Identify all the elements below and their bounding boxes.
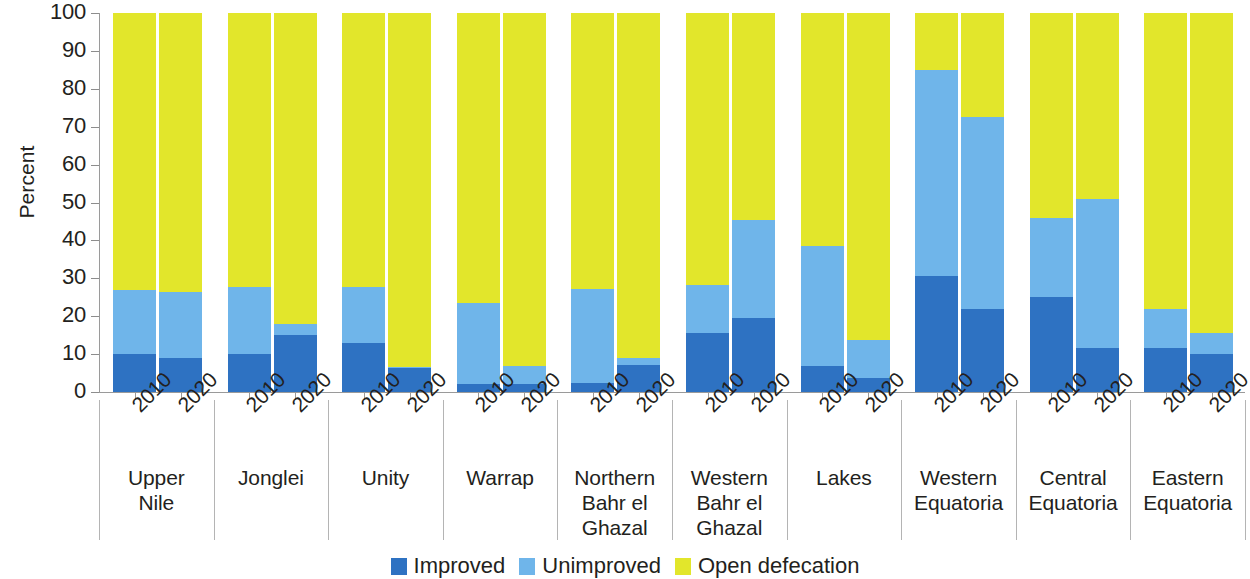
stacked-bar: [342, 13, 385, 392]
stacked-bar: [159, 13, 202, 392]
bar-segment-open-defecation: [801, 13, 844, 246]
plot-area: [99, 13, 1245, 392]
y-axis-tick-mark: [91, 354, 99, 355]
bar-segment-open-defecation: [1030, 13, 1073, 218]
stacked-bar: [686, 13, 729, 392]
y-axis-tick-label: 20: [38, 304, 86, 326]
legend-item: Improved: [391, 553, 506, 579]
bar-segment-open-defecation: [847, 13, 890, 340]
x-axis-group-label: WesternBahr elGhazal: [672, 465, 787, 540]
bar-segment-unimproved: [388, 367, 431, 368]
y-axis-tick-label: 0: [38, 380, 86, 402]
stacked-bar: [1190, 13, 1233, 392]
y-axis-tick-mark: [91, 392, 99, 393]
stacked-bar: [915, 13, 958, 392]
y-axis-tick-mark: [91, 278, 99, 279]
bar-segment-open-defecation: [915, 13, 958, 70]
stacked-bar: [388, 13, 431, 392]
chart-legend: ImprovedUnimprovedOpen defecation: [0, 553, 1250, 579]
stacked-bar: [1144, 13, 1187, 392]
stacked-bar: [228, 13, 271, 392]
legend-item: Open defecation: [675, 553, 859, 579]
y-axis-tick-mark: [91, 51, 99, 52]
legend-swatch-icon: [675, 558, 691, 575]
y-axis-tick-label: 60: [38, 153, 86, 175]
x-axis-group-label: CentralEquatoria: [1016, 465, 1131, 515]
y-axis-tick-label: 100: [38, 1, 86, 23]
stacked-bar-chart: Percent 0102030405060708090100 201020202…: [0, 0, 1250, 579]
y-axis-tick-mark: [91, 89, 99, 90]
stacked-bar: [1076, 13, 1119, 392]
stacked-bar: [457, 13, 500, 392]
stacked-bar: [847, 13, 890, 392]
x-axis-group-label: Unity: [328, 465, 443, 490]
y-axis-tick-mark: [91, 165, 99, 166]
bar-segment-unimproved: [342, 287, 385, 343]
bar-segment-open-defecation: [571, 13, 614, 289]
legend-label: Open defecation: [698, 553, 859, 579]
bar-segment-open-defecation: [686, 13, 729, 285]
bar-segment-unimproved: [1190, 333, 1233, 354]
y-axis-tick-label: 50: [38, 191, 86, 213]
bar-segment-unimproved: [961, 117, 1004, 308]
stacked-bar: [113, 13, 156, 392]
bar-segment-unimproved: [1076, 199, 1119, 349]
bar-segment-open-defecation: [503, 13, 546, 366]
y-axis-tick-mark: [91, 13, 99, 14]
bar-segment-open-defecation: [159, 13, 202, 292]
bar-segment-unimproved: [686, 285, 729, 333]
y-axis-tick-mark: [91, 127, 99, 128]
y-axis-tick-label: 10: [38, 342, 86, 364]
legend-swatch-icon: [391, 558, 407, 575]
bar-segment-open-defecation: [617, 13, 660, 358]
bar-segment-unimproved: [617, 358, 660, 365]
bar-segment-open-defecation: [1144, 13, 1187, 309]
bar-segment-open-defecation: [1190, 13, 1233, 333]
bar-segment-open-defecation: [1076, 13, 1119, 199]
legend-swatch-icon: [519, 558, 535, 575]
bar-segment-unimproved: [113, 290, 156, 354]
y-axis-tick-label: 30: [38, 266, 86, 288]
x-axis-group-label: EasternEquatoria: [1130, 465, 1245, 515]
bar-segment-open-defecation: [388, 13, 431, 367]
stacked-bar: [571, 13, 614, 392]
bar-segment-unimproved: [801, 246, 844, 367]
stacked-bar: [801, 13, 844, 392]
bar-segment-open-defecation: [228, 13, 271, 287]
y-axis-tick-label: 80: [38, 77, 86, 99]
bar-segment-improved: [915, 276, 958, 392]
legend-label: Unimproved: [542, 553, 661, 579]
stacked-bar: [732, 13, 775, 392]
x-axis-group-label: WesternEquatoria: [901, 465, 1016, 515]
bar-segment-unimproved: [915, 70, 958, 277]
x-axis-group-label: NorthernBahr elGhazal: [557, 465, 672, 540]
y-axis-tick-label: 90: [38, 39, 86, 61]
bar-segment-open-defecation: [113, 13, 156, 290]
bar-segment-unimproved: [457, 303, 500, 384]
x-axis-group-label: Jonglei: [214, 465, 329, 490]
y-axis-tick-label: 40: [38, 228, 86, 250]
legend-label: Improved: [414, 553, 506, 579]
stacked-bar: [617, 13, 660, 392]
bar-segment-open-defecation: [732, 13, 775, 220]
stacked-bar: [961, 13, 1004, 392]
bar-segment-open-defecation: [457, 13, 500, 303]
bar-segment-unimproved: [1144, 309, 1187, 349]
x-axis-group-label: Warrap: [443, 465, 558, 490]
bar-segment-unimproved: [1030, 218, 1073, 298]
stacked-bar: [503, 13, 546, 392]
legend-item: Unimproved: [519, 553, 661, 579]
bar-segment-open-defecation: [961, 13, 1004, 117]
bar-segment-unimproved: [732, 220, 775, 319]
y-axis-tick-mark: [91, 316, 99, 317]
y-axis-tick-mark: [91, 240, 99, 241]
bar-segment-unimproved: [228, 287, 271, 354]
bar-segment-unimproved: [159, 292, 202, 358]
bar-segment-open-defecation: [274, 13, 317, 324]
x-axis-group-label: UpperNile: [99, 465, 214, 515]
bar-segment-unimproved: [274, 324, 317, 335]
stacked-bar: [1030, 13, 1073, 392]
y-axis-tick-label: 70: [38, 115, 86, 137]
y-axis-title: Percent: [15, 122, 39, 242]
y-axis-tick-mark: [91, 203, 99, 204]
